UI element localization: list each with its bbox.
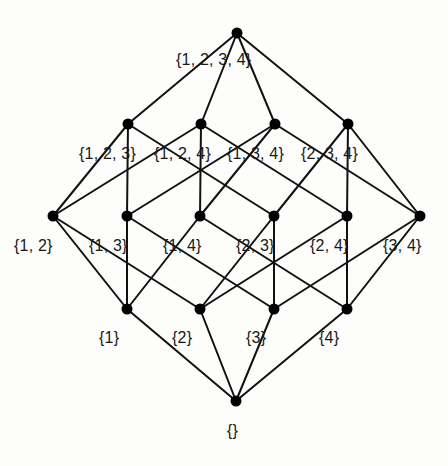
edge-123-12: [53, 124, 128, 216]
node-0: [231, 396, 242, 407]
node-label-123: {1, 2, 3}: [79, 146, 136, 162]
edge-124-24: [201, 124, 347, 216]
node-label-24: {2, 4}: [310, 238, 349, 254]
node-label-1: {1}: [99, 330, 119, 346]
edge-14-1: [127, 216, 200, 309]
edge-1234-124: [201, 33, 237, 124]
edge-4-0: [236, 309, 347, 401]
edge-13-3: [127, 216, 274, 309]
node-label-134: {1, 3, 4}: [227, 146, 284, 162]
edge-1234-234: [237, 33, 348, 124]
node-123: [123, 119, 134, 130]
node-124: [196, 119, 207, 130]
node-1234: [232, 28, 243, 39]
node-14: [195, 211, 206, 222]
node-label-34: {3, 4}: [383, 238, 422, 254]
node-label-0: {}: [227, 423, 238, 439]
node-12: [48, 211, 59, 222]
node-label-2: {2}: [172, 330, 192, 346]
node-label-4: {4}: [319, 330, 339, 346]
node-13: [122, 211, 133, 222]
edge-134-14: [200, 124, 275, 216]
edge-1234-134: [237, 33, 275, 124]
edge-23-2: [200, 216, 274, 309]
node-label-234: {2, 3, 4}: [301, 146, 358, 162]
node-3: [269, 304, 280, 315]
edge-2-0: [200, 309, 236, 401]
edge-234-24: [347, 124, 348, 216]
node-34: [415, 211, 426, 222]
node-2: [195, 304, 206, 315]
node-4: [342, 304, 353, 315]
node-134: [270, 119, 281, 130]
node-234: [343, 119, 354, 130]
edge-1-0: [127, 309, 236, 401]
node-label-124: {1, 2, 4}: [154, 146, 211, 162]
node-24: [342, 211, 353, 222]
edge-1234-123: [128, 33, 237, 124]
hasse-diagram: {1, 2, 3, 4}{1, 2, 3}{1, 2, 4}{1, 3, 4}{…: [0, 0, 448, 466]
lattice-graphic: [0, 0, 448, 466]
edge-3-0: [236, 309, 274, 401]
edge-234-34: [348, 124, 420, 216]
node-label-3: {3}: [246, 330, 266, 346]
edge-234-23: [274, 124, 348, 216]
node-label-23: {2, 3}: [236, 238, 275, 254]
node-label-1234: {1, 2, 3, 4}: [176, 52, 251, 68]
node-label-13: {1, 3}: [89, 238, 128, 254]
node-1: [122, 304, 133, 315]
node-label-14: {1, 4}: [163, 238, 202, 254]
node-23: [269, 211, 280, 222]
nodes: [48, 28, 426, 407]
node-label-12: {1, 2}: [14, 238, 53, 254]
edge-34-4: [347, 216, 420, 309]
edge-12-1: [53, 216, 127, 309]
